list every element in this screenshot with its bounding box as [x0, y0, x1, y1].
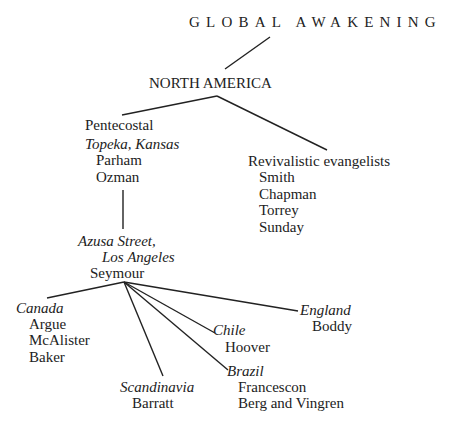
line-seymour-to-canada	[47, 282, 124, 298]
connector-lines	[0, 0, 456, 425]
topeka-kansas-place: Topeka, Kansas	[85, 136, 179, 152]
scandinavia-place: Scandinavia	[120, 379, 194, 395]
person-argue: Argue	[29, 316, 66, 332]
line-seymour-to-scandinavia	[124, 282, 163, 376]
los-angeles-place: Los Angeles	[102, 249, 175, 265]
person-chapman: Chapman	[259, 186, 317, 202]
person-smith: Smith	[259, 169, 295, 185]
region-north-america: NORTH AMERICA	[149, 75, 272, 91]
line-north-america-to-pentecostal	[122, 96, 217, 115]
person-seymour: Seymour	[90, 265, 144, 281]
person-parham: Parham	[96, 152, 142, 168]
person-mcalister: McAlister	[29, 332, 90, 348]
line-north-america-to-revivalistic	[217, 96, 327, 150]
person-boddy: Boddy	[312, 318, 352, 334]
person-barratt: Barratt	[132, 395, 174, 411]
england-place: England	[300, 302, 351, 318]
azusa-street-place: Azusa Street,	[78, 233, 156, 249]
person-baker: Baker	[29, 349, 65, 365]
person-sunday: Sunday	[259, 219, 304, 235]
canada-place: Canada	[16, 300, 64, 316]
person-francescon: Francescon	[238, 379, 306, 395]
person-hoover: Hoover	[225, 339, 270, 355]
pentecostal-label: Pentecostal	[85, 117, 153, 133]
chile-place: Chile	[213, 322, 246, 338]
line-global-to-north-america	[225, 37, 270, 69]
brazil-place: Brazil	[227, 363, 264, 379]
person-ozman: Ozman	[96, 169, 139, 185]
person-torrey: Torrey	[259, 202, 299, 218]
diagram-title: GLOBAL AWAKENING	[189, 14, 442, 30]
revivalistic-label: Revivalistic evangelists	[248, 153, 390, 169]
person-berg-and-vingren: Berg and Vingren	[238, 395, 344, 411]
